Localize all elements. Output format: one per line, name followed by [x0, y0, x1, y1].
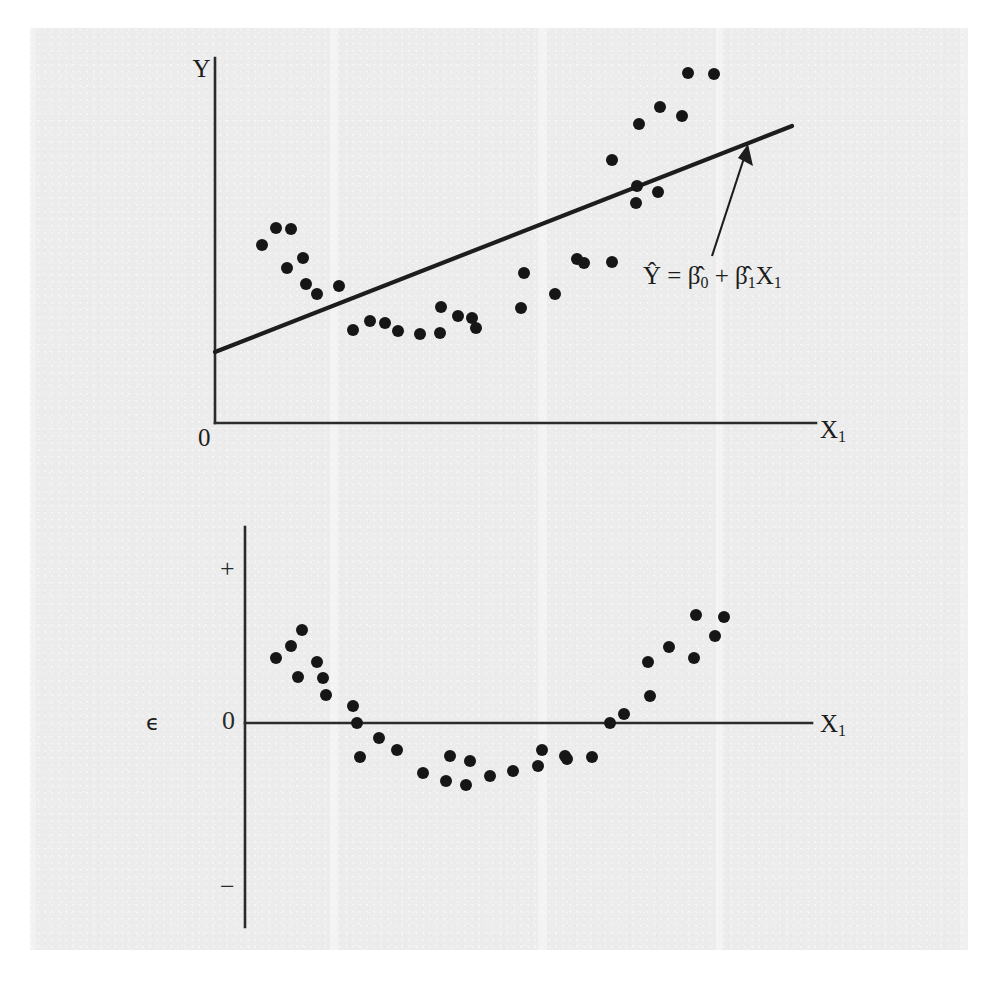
equation-annotation-arrow [712, 144, 753, 256]
data-point [256, 239, 268, 251]
top-scatter-points [256, 67, 720, 340]
data-point [333, 280, 345, 292]
residual-point [311, 656, 323, 668]
top-x-axis-label-base: X [820, 416, 838, 443]
figure-vector-layer [0, 0, 996, 982]
residual-point [690, 609, 702, 621]
residual-point [536, 744, 548, 756]
residual-point [688, 652, 700, 664]
fitted-regression-line [215, 126, 792, 352]
equation-x: X [756, 262, 774, 289]
residual-x-axis-label: X1 [820, 711, 846, 739]
data-point [606, 256, 618, 268]
residual-point [317, 672, 329, 684]
data-point [633, 118, 645, 130]
data-point [631, 180, 643, 192]
top-x-axis-label: X1 [820, 417, 846, 445]
residual-tick-plus: + [220, 556, 235, 582]
residual-point [296, 624, 308, 636]
residual-point [464, 755, 476, 767]
top-panel-axes [215, 58, 816, 423]
residual-scatter-points [270, 609, 730, 791]
data-point [281, 262, 293, 274]
residual-tick-minus: − [220, 874, 235, 900]
residual-point [347, 700, 359, 712]
data-point [606, 154, 618, 166]
data-point [452, 310, 464, 322]
residual-point [373, 732, 385, 744]
regression-equation-label: Ŷ = β̂0 + β̂1X1 [643, 263, 782, 291]
residual-point [292, 671, 304, 683]
data-point [435, 301, 447, 313]
residual-x-axis-label-base: X [820, 710, 838, 737]
residual-point [507, 765, 519, 777]
data-point [285, 223, 297, 235]
data-point [297, 252, 309, 264]
data-point [414, 328, 426, 340]
figure-root: Y 0 X1 Ŷ = β̂0 + β̂1X1 ϵ + 0 − X1 [0, 0, 996, 982]
data-point [578, 257, 590, 269]
residual-x-axis-label-subscript: 1 [838, 722, 846, 739]
data-point [682, 67, 694, 79]
residual-point [709, 630, 721, 642]
bottom-panel-axes [245, 527, 812, 927]
data-point [364, 315, 376, 327]
residual-point [618, 708, 630, 720]
equation-x-subscript: 1 [774, 274, 782, 291]
residual-point [484, 770, 496, 782]
residual-point [285, 640, 297, 652]
residual-point [642, 656, 654, 668]
equation-beta0: β̂ [688, 262, 701, 289]
residual-point [460, 779, 472, 791]
equation-equals: = [667, 262, 681, 289]
data-point [300, 278, 312, 290]
residual-point [354, 751, 366, 763]
data-point [654, 101, 666, 113]
residual-tick-zero: 0 [222, 708, 235, 734]
top-y-axis-label: Y [193, 56, 211, 81]
equation-beta1: β̂ [735, 262, 748, 289]
data-point [379, 317, 391, 329]
residual-point [391, 744, 403, 756]
residual-point [718, 611, 730, 623]
data-point [652, 186, 664, 198]
data-point [470, 322, 482, 334]
equation-beta0-subscript: 0 [700, 274, 708, 291]
residual-y-axis-label: ϵ [146, 712, 160, 734]
data-point [708, 68, 720, 80]
top-x-axis-label-subscript: 1 [838, 428, 846, 445]
equation-plus: + [715, 262, 729, 289]
data-point [434, 327, 446, 339]
residual-point [320, 689, 332, 701]
residual-point [532, 760, 544, 772]
residual-point [604, 717, 616, 729]
data-point [549, 288, 561, 300]
data-point [676, 110, 688, 122]
top-origin-label: 0 [198, 425, 211, 450]
data-point [630, 197, 642, 209]
residual-point [561, 753, 573, 765]
residual-point [351, 717, 363, 729]
data-point [311, 288, 323, 300]
residual-point [663, 641, 675, 653]
residual-point [270, 652, 282, 664]
residual-point [644, 690, 656, 702]
residual-point [417, 767, 429, 779]
data-point [515, 302, 527, 314]
data-point [392, 325, 404, 337]
residual-point [440, 775, 452, 787]
equation-lhs: Ŷ [643, 262, 661, 289]
data-point [347, 324, 359, 336]
residual-point [586, 751, 598, 763]
data-point [518, 267, 530, 279]
data-point [270, 222, 282, 234]
equation-beta1-subscript: 1 [748, 274, 756, 291]
residual-point [444, 750, 456, 762]
